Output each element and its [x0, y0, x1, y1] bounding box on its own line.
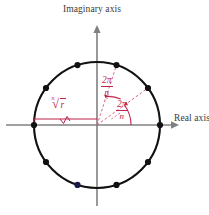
angle-label-inner: 2π n — [116, 100, 128, 123]
root-point — [157, 122, 163, 128]
radical-index: n — [52, 95, 55, 101]
imaginary-axis-label: Imaginary axis — [52, 4, 132, 15]
root-point — [74, 182, 80, 188]
root-point — [113, 62, 119, 68]
root-point — [113, 182, 119, 188]
fraction-denominator: n — [116, 111, 128, 121]
fraction-numerator: 2π — [116, 100, 128, 111]
radius-segment — [34, 117, 97, 126]
fraction-2pi-over-n: 2π n — [116, 100, 128, 121]
real-axis-label: Real axis — [174, 113, 208, 124]
fraction-denominator: n — [101, 87, 113, 97]
angle-label-outer: 2π n — [101, 76, 113, 99]
radicand: r — [60, 98, 66, 110]
root-point — [43, 85, 49, 91]
complex-roots-figure: Imaginary axis Real axis 2π n 2π n n √ r — [0, 0, 209, 215]
fraction-numerator: 2π — [101, 76, 113, 87]
root-point — [31, 122, 37, 128]
fraction-2pi-over-n: 2π n — [101, 76, 113, 97]
root-point — [74, 62, 80, 68]
radius-magnitude-label: n √ r — [52, 97, 66, 110]
figure-canvas — [0, 0, 209, 215]
nth-root-radical: n √ r — [52, 97, 66, 110]
root-point — [43, 159, 49, 165]
imaginary-axis — [93, 25, 100, 206]
root-point — [145, 159, 151, 165]
root-point — [145, 85, 151, 91]
